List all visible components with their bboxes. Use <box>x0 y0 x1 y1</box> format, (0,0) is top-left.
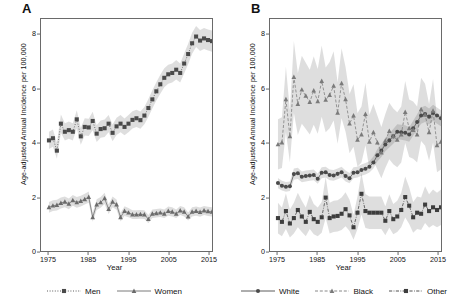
legend-label: White <box>279 287 299 296</box>
legend-item-white[interactable]: White <box>241 286 299 296</box>
legend-label: Black <box>353 287 373 296</box>
x-tick-mark <box>397 252 398 255</box>
y-tick-mark <box>37 197 40 198</box>
y-tick-mark <box>266 143 269 144</box>
legend-key-circle-icon <box>241 286 275 296</box>
y-tick-label: 2 <box>32 194 40 202</box>
y-tick-label: 8 <box>32 30 40 38</box>
y-tick-mark <box>266 88 269 89</box>
panel-b-y-axis-label: Age-adjusted Annual Incidence per 100,00… <box>249 29 257 199</box>
panel-a-y-axis-label: Age-adjusted Annual Incidence per 100,00… <box>20 29 28 199</box>
legend-key-triangle-icon <box>117 286 151 296</box>
y-tick-label: 8 <box>261 30 269 38</box>
y-tick-mark <box>37 34 40 35</box>
y-tick-label: 6 <box>261 85 269 93</box>
panel-b-svg-wrap <box>270 19 441 251</box>
panel-b-label: B <box>251 2 260 15</box>
x-tick-mark <box>209 252 210 255</box>
panel-b-x-axis-label: Year <box>229 263 458 272</box>
legend-label: Other <box>427 287 447 296</box>
panel-a-plot-area <box>40 18 213 252</box>
y-tick-label: 2 <box>261 194 269 202</box>
x-tick-mark <box>88 252 89 255</box>
x-tick-mark <box>357 252 358 255</box>
x-tick-mark <box>48 252 49 255</box>
panel-b-legend: WhiteBlackOther <box>229 281 459 301</box>
legend-item-black[interactable]: Black <box>315 286 373 296</box>
y-tick-label: 6 <box>32 85 40 93</box>
panel-b-chart-svg <box>270 19 441 251</box>
panel-a-legend: MenWomen <box>0 281 229 301</box>
legend-item-women[interactable]: Women <box>117 286 182 296</box>
figure-root: A Age-adjusted Annual Incidence per 100,… <box>0 0 459 304</box>
x-tick-mark <box>128 252 129 255</box>
legend-key-square-icon <box>389 286 423 296</box>
panel-a-svg-wrap <box>41 19 212 251</box>
panel-b-plot-area <box>269 18 442 252</box>
y-tick-label: 0 <box>32 248 40 256</box>
panel-a-label: A <box>22 2 31 15</box>
legend-item-men[interactable]: Men <box>47 286 101 296</box>
y-tick-label: 0 <box>261 248 269 256</box>
y-tick-label: 4 <box>261 139 269 147</box>
legend-label: Women <box>155 287 182 296</box>
y-tick-mark <box>266 197 269 198</box>
x-tick-mark <box>168 252 169 255</box>
panel-a: A Age-adjusted Annual Incidence per 100,… <box>0 0 229 272</box>
y-tick-mark <box>266 34 269 35</box>
y-tick-label: 4 <box>32 139 40 147</box>
panel-a-chart-svg <box>41 19 212 251</box>
panel-b: B Age-adjusted Annual Incidence per 100,… <box>229 0 458 272</box>
y-tick-mark <box>37 143 40 144</box>
panel-a-x-axis-label: Year <box>0 263 229 272</box>
x-tick-mark <box>317 252 318 255</box>
x-tick-mark <box>438 252 439 255</box>
legend-key-triangle-icon <box>315 286 349 296</box>
legend-key-square-icon <box>47 286 81 296</box>
y-tick-mark <box>37 88 40 89</box>
legend-label: Men <box>85 287 101 296</box>
legend-item-other[interactable]: Other <box>389 286 447 296</box>
x-tick-mark <box>277 252 278 255</box>
